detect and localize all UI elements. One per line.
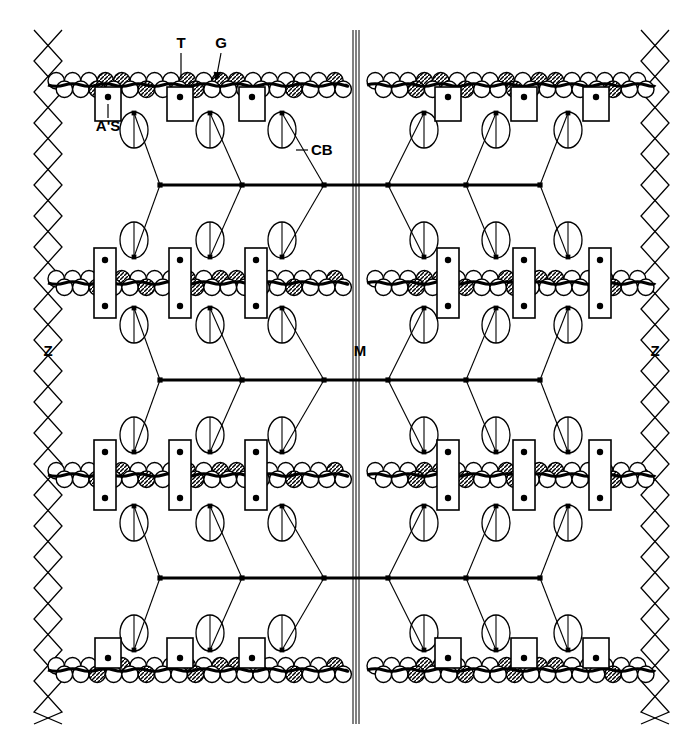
troponin-dot [102,257,108,263]
troponin-dot [102,495,108,501]
troponin-dot [521,495,527,501]
troponin-box-top[interactable] [435,87,461,121]
crossbridge-arm [466,185,496,257]
crossbridge-arm [388,113,424,185]
m-line [353,30,359,724]
troponin-dot [102,303,108,309]
troponin-box-top[interactable] [511,87,537,121]
label-leader-group [108,53,308,150]
troponin-box-outline[interactable] [583,638,609,668]
z-line-strand [34,30,62,724]
troponin-dot [445,303,451,309]
label-as: A'S [96,117,120,134]
crossbridge-arm [210,506,242,578]
troponin-box-bottom[interactable] [95,638,121,668]
troponin-box-middle[interactable] [94,440,116,510]
troponin-dot [105,94,111,100]
troponin-dot [445,257,451,263]
label-cb: CB [311,141,333,158]
troponin-box-outline[interactable] [167,638,193,668]
crossbridge-arm [540,578,568,650]
troponin-box-middle[interactable] [94,248,116,318]
crossbridge-arm [210,578,242,650]
troponin-box-middle[interactable] [245,248,267,318]
troponin-box-outline[interactable] [583,87,609,121]
troponin-dot [521,257,527,263]
z-line-left [34,30,62,724]
troponin-dot [593,94,599,100]
troponin-dot [253,495,259,501]
crossbridge-arm [540,185,568,257]
figure-canvas: TGA'SCBZMZ [0,0,700,754]
troponin-box-bottom[interactable] [511,638,537,668]
troponin-box-middle[interactable] [169,440,191,510]
z-line-strand [641,30,669,724]
troponin-box-outline[interactable] [511,638,537,668]
crossbridge-arm [282,308,324,380]
m-line-group [353,30,359,724]
label-t: T [176,34,185,51]
troponin-box-outline[interactable] [435,87,461,121]
crossbridge-arm [540,506,568,578]
thin-filament-group [48,73,655,683]
crossbridge-arm [540,308,568,380]
troponin-box-bottom[interactable] [583,638,609,668]
troponin-dot [177,303,183,309]
troponin-dot [102,449,108,455]
troponin-box-middle[interactable] [169,248,191,318]
thick-filament-row [120,504,582,653]
troponin-box-outline[interactable] [239,638,265,668]
troponin-dot [177,655,183,661]
troponin-box-outline[interactable] [167,87,193,121]
crossbridge-arm [388,380,424,452]
label-z_left: Z [43,342,52,359]
troponin-dot [253,257,259,263]
troponin-box-outline[interactable] [511,87,537,121]
troponin-box-middle[interactable] [589,440,611,510]
troponin-box-middle[interactable] [437,248,459,318]
troponin-box-middle[interactable] [589,248,611,318]
troponin-box-middle[interactable] [245,440,267,510]
crossbridge-arm [466,506,496,578]
troponin-dot [597,257,603,263]
thick-filament-row [120,111,582,260]
troponin-dot [249,94,255,100]
troponin-dot [177,495,183,501]
troponin-box-outline[interactable] [95,638,121,668]
thick-filament-group [120,111,582,653]
troponin-dot [177,257,183,263]
troponin-box-outline[interactable] [435,638,461,668]
crossbridge-arm [388,185,424,257]
crossbridge-arm [282,380,324,452]
troponin-box-top[interactable] [239,87,265,121]
troponin-dot [253,449,259,455]
troponin-box-bottom[interactable] [167,638,193,668]
troponin-box-bottom[interactable] [239,638,265,668]
z-line-strand [34,30,62,724]
thin-filament [48,73,351,98]
label-m: M [354,342,367,359]
troponin-box-outline[interactable] [239,87,265,121]
troponin-box-top[interactable] [583,87,609,121]
crossbridge-arm [282,578,324,650]
troponin-box-middle[interactable] [437,440,459,510]
troponin-box-bottom[interactable] [435,638,461,668]
troponin-box-top[interactable] [167,87,193,121]
crossbridge-arm [466,380,496,452]
troponin-dot [445,449,451,455]
troponin-dot [521,94,527,100]
crossbridge-arm [210,380,242,452]
troponin-box-middle[interactable] [513,440,535,510]
troponin-box-middle[interactable] [513,248,535,318]
troponin-dot [521,303,527,309]
troponin-dot [249,655,255,661]
troponin-dot [597,495,603,501]
crossbridge-arm [388,578,424,650]
troponin-dot [177,449,183,455]
troponin-dot [521,655,527,661]
crossbridge-arm [282,506,324,578]
crossbridge-arm [388,308,424,380]
crossbridge-arm [210,113,242,185]
z-line-strand [641,30,669,724]
label-g: G [215,34,227,51]
